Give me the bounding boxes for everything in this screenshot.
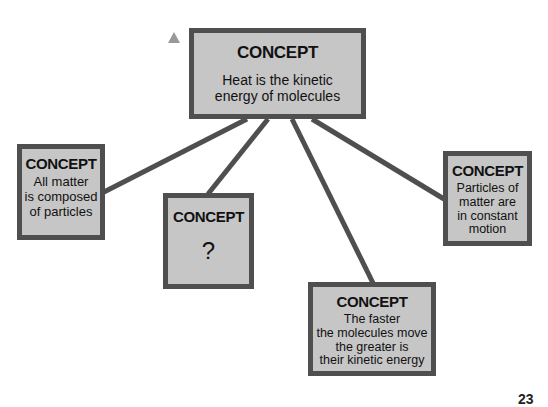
concept-node-left: CONCEPT All matteris composedof particle… <box>17 144 105 240</box>
concept-node-right: CONCEPT Particles ofmatter arein constan… <box>443 151 532 246</box>
page-number: 23 <box>518 391 534 407</box>
concept-node-top: CONCEPT Heat is the kineticenergy of mol… <box>189 28 366 119</box>
concept-node-bottom: CONCEPT The fasterthe molecules movethe … <box>308 282 436 376</box>
triangle-icon <box>168 32 180 43</box>
link-top-right <box>312 119 444 199</box>
node-text: Particles ofmatter arein constantmotion <box>448 182 527 237</box>
node-text: All matteris composedof particles <box>22 175 100 220</box>
link-top-bottom <box>292 119 373 283</box>
link-top-question <box>208 119 268 194</box>
node-text: Heat is the kineticenergy of molecules <box>194 72 361 104</box>
node-title: CONCEPT <box>448 162 527 179</box>
node-text: The fasterthe molecules movethe greater … <box>313 313 431 368</box>
node-title: CONCEPT <box>313 293 431 310</box>
node-title: CONCEPT <box>168 208 249 225</box>
node-title: CONCEPT <box>22 155 100 172</box>
node-text: ? <box>168 237 249 265</box>
concept-node-question: CONCEPT ? <box>163 193 254 289</box>
link-top-left <box>104 119 247 192</box>
node-title: CONCEPT <box>194 43 361 63</box>
